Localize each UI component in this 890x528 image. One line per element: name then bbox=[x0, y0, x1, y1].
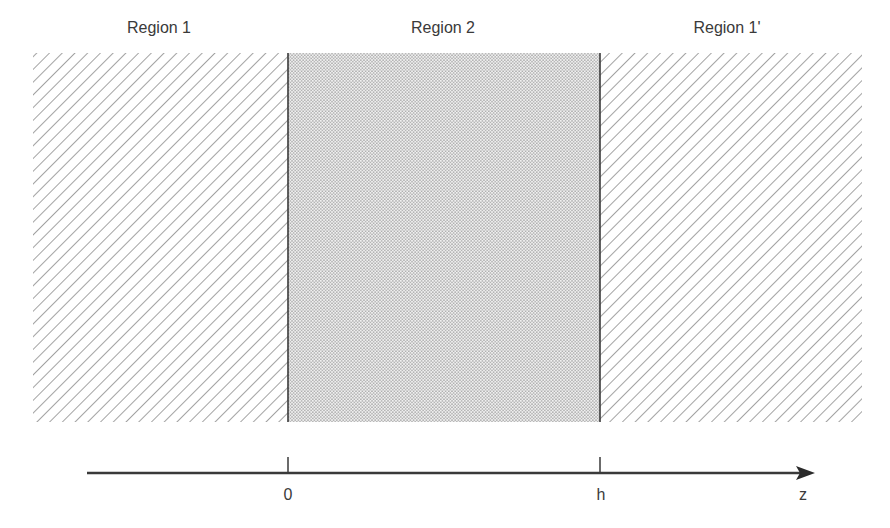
tick-label-h: h bbox=[597, 486, 606, 503]
tick-label-0: 0 bbox=[284, 486, 293, 503]
layered-media-diagram: Region 1 Region 2 Region 1' 0 h z bbox=[0, 0, 890, 528]
region-1-label: Region 1 bbox=[127, 19, 191, 36]
region-2-label: Region 2 bbox=[411, 19, 475, 36]
region-1-hatched bbox=[33, 53, 288, 422]
region-2-dotted bbox=[288, 53, 600, 422]
region-1-prime-label: Region 1' bbox=[693, 19, 760, 36]
region-1-prime-hatched bbox=[600, 53, 862, 422]
axis-label-z: z bbox=[799, 486, 807, 503]
